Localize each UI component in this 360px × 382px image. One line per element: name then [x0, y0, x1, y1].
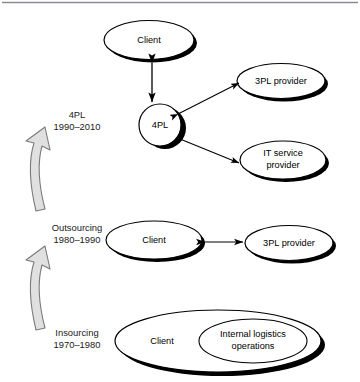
node-top-client: Client [104, 21, 197, 63]
node-3pl-provider-mid-label: 3PL provider [263, 238, 315, 248]
node-3pl-provider-mid: 3PL provider [245, 226, 336, 264]
node-top-client-label: Client [137, 35, 161, 45]
stage-label-4pl-name: 4PL [69, 109, 86, 120]
connector-4pl-it-service [180, 139, 239, 163]
node-4pl: 4PL [139, 104, 186, 149]
node-internal-logistics-operations: Internal logistics operations [199, 319, 307, 363]
stage-label-insourcing: Insourcing 1970–1980 [54, 327, 101, 350]
node-bottom-client-label: Client [150, 336, 174, 346]
stage-label-outsourcing-period: 1980–1990 [54, 234, 101, 245]
node-3pl-provider-top-label: 3PL provider [255, 76, 307, 86]
connector-4pl-3pl [178, 83, 239, 114]
node-4pl-label: 4PL [152, 120, 168, 130]
arrow-outsourcing-to-4pl [26, 127, 50, 211]
node-it-service-provider-label-line2: provider [266, 160, 299, 170]
node-mid-client-label: Client [142, 235, 166, 245]
stage-label-outsourcing-name: Outsourcing [52, 222, 103, 233]
stage-label-4pl-period: 1990–2010 [54, 121, 101, 132]
arrow-insourcing-to-outsourcing [26, 246, 50, 330]
node-internal-logistics-label-line2: operations [232, 341, 275, 351]
node-it-service-provider: IT service provider [240, 141, 329, 182]
node-it-service-provider-label-line1: IT service [263, 148, 303, 158]
stage-label-4pl: 4PL 1990–2010 [54, 109, 101, 132]
node-internal-logistics-label-line1: Internal logistics [220, 329, 286, 339]
node-mid-client: Client [106, 221, 205, 262]
stage-label-insourcing-name: Insourcing [55, 327, 98, 338]
node-3pl-provider-top: 3PL provider [237, 64, 328, 102]
stage-label-outsourcing: Outsourcing 1980–1990 [52, 222, 103, 245]
stage-label-insourcing-period: 1970–1980 [54, 339, 101, 350]
diagram-canvas: Client 4PL 3PL provider IT service provi… [0, 0, 360, 382]
